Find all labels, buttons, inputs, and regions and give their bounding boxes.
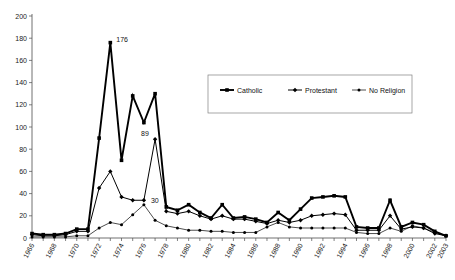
data-point <box>153 137 157 141</box>
y-tick-label: 100 <box>15 124 27 131</box>
data-point <box>86 227 90 231</box>
data-point <box>120 223 123 226</box>
data-point <box>176 227 179 230</box>
data-point <box>243 231 246 234</box>
data-point <box>187 203 191 207</box>
legend-label-no-religion: No Religion <box>369 87 405 95</box>
data-point <box>321 212 325 216</box>
data-point <box>366 226 370 230</box>
data-point <box>332 211 336 215</box>
data-point <box>86 234 89 237</box>
data-point <box>265 225 268 228</box>
data-point <box>131 213 134 216</box>
data-point <box>131 94 135 98</box>
data-point <box>310 227 313 230</box>
data-point <box>221 230 224 233</box>
data-point <box>288 225 291 228</box>
y-tick-label: 200 <box>15 13 27 20</box>
y-tick-label: 180 <box>15 35 27 42</box>
data-point <box>310 196 314 200</box>
data-point <box>119 195 123 199</box>
x-axis: 1966196819701972197419761978198019821984… <box>22 238 450 259</box>
data-point <box>64 232 68 236</box>
legend-label-catholic: Catholic <box>237 87 263 94</box>
x-tick-label: 1988 <box>268 242 282 259</box>
data-point <box>75 227 79 231</box>
data-point <box>186 209 190 213</box>
data-point <box>109 221 112 224</box>
data-point <box>142 198 146 202</box>
data-point <box>232 231 235 234</box>
data-point <box>389 227 392 230</box>
y-tick-label: 160 <box>15 57 27 64</box>
x-tick-label: 2003 <box>436 242 450 259</box>
data-point <box>333 227 336 230</box>
legend: CatholicProtestantNo Religion <box>208 75 412 113</box>
data-point <box>265 221 269 225</box>
data-point <box>288 218 292 222</box>
y-tick-label: 140 <box>15 79 27 86</box>
x-tick-label: 1972 <box>89 242 103 259</box>
data-point <box>355 225 359 229</box>
data-point <box>298 218 302 222</box>
data-point <box>410 225 414 229</box>
series-line-protestant <box>32 139 446 236</box>
x-tick-label: 1992 <box>313 242 327 259</box>
x-tick-label: 1986 <box>246 242 260 259</box>
data-point <box>276 218 280 222</box>
data-point <box>165 224 168 227</box>
data-point <box>154 219 157 222</box>
y-tick-label: 0 <box>23 235 27 242</box>
data-point <box>344 227 347 230</box>
y-tick-label: 60 <box>19 168 27 175</box>
data-point <box>276 211 280 215</box>
data-point <box>377 226 381 230</box>
data-label-176: 176 <box>116 36 128 43</box>
x-tick-label: 1994 <box>335 242 349 259</box>
data-point <box>164 209 168 213</box>
y-tick-label: 40 <box>19 190 27 197</box>
y-tick-label: 80 <box>19 146 27 153</box>
data-point <box>332 194 336 198</box>
data-point <box>198 229 201 232</box>
x-tick-label: 1982 <box>201 242 215 259</box>
data-point <box>388 198 392 202</box>
x-tick-label: 1976 <box>134 242 148 259</box>
data-point <box>243 215 247 219</box>
data-point <box>41 233 45 237</box>
data-point <box>433 230 437 234</box>
data-label-89: 89 <box>141 130 149 137</box>
data-point <box>30 232 34 236</box>
series-no-religion <box>31 203 448 238</box>
data-labels: 1768930 <box>116 36 158 204</box>
data-point <box>310 214 314 218</box>
data-point <box>366 232 369 235</box>
data-point <box>321 195 325 199</box>
data-point <box>411 221 415 225</box>
x-tick-label: 1974 <box>111 242 125 259</box>
data-point <box>120 159 124 163</box>
data-point <box>343 195 347 199</box>
x-tick-label: 1990 <box>290 242 304 259</box>
data-point <box>444 234 448 238</box>
line-chart: 020406080100120140160180200 196619681970… <box>0 0 455 280</box>
x-tick-label: 1996 <box>358 242 372 259</box>
x-tick-label: 1968 <box>44 242 58 259</box>
data-point <box>209 216 213 220</box>
data-point <box>176 208 180 212</box>
x-tick-label: 1984 <box>223 242 237 259</box>
data-point <box>187 229 190 232</box>
data-point <box>377 232 380 235</box>
data-point <box>153 92 157 96</box>
chart-container: 020406080100120140160180200 196619681970… <box>0 0 455 280</box>
data-point <box>299 227 302 230</box>
x-tick-label: 1980 <box>179 242 193 259</box>
y-axis: 020406080100120140160180200 <box>15 13 32 242</box>
data-point <box>321 227 324 230</box>
series-layer <box>30 41 448 239</box>
data-point <box>142 121 146 125</box>
x-tick-label: 1970 <box>67 242 81 259</box>
data-point <box>399 225 403 229</box>
data-point <box>98 227 101 230</box>
data-point <box>198 211 202 215</box>
